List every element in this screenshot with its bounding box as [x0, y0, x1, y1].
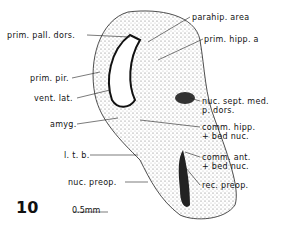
- label-nuc-sept-med: nuc. sept. med.: [202, 97, 269, 106]
- label-nuc-preop: nuc. preop.: [68, 178, 117, 187]
- label-comm-hipp: comm. hipp.: [202, 123, 255, 132]
- label-comm-ant: comm. ant.: [202, 153, 251, 162]
- label-prim-pir: prim. pir.: [30, 74, 69, 83]
- label-vent-lat: vent. lat.: [34, 94, 73, 103]
- label-prim-hipp-a: prim. hipp. a: [204, 35, 259, 44]
- label-comm-ant-bed: + bed nuc.: [202, 162, 249, 171]
- label-comm-hipp-bed: + bed nuc.: [202, 132, 249, 141]
- septal-nucleus: [175, 92, 195, 104]
- label-rec-preop: rec. preop.: [202, 181, 248, 190]
- figure-number: 10: [16, 198, 38, 217]
- label-prim-pall-dors: prim. pall. dors.: [7, 31, 75, 40]
- label-amyg: amyg.: [50, 120, 77, 129]
- label-ltb: l. t. b.: [64, 151, 90, 160]
- label-parahip-area: parahip. area: [192, 13, 249, 22]
- scale-bar: 0.5mm: [72, 206, 100, 215]
- label-nuc-sept-p-dors: p. dors.: [202, 106, 235, 115]
